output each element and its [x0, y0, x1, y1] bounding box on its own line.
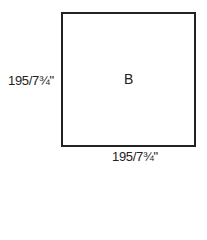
shape-label: B [124, 71, 133, 87]
height-dimension-label: 195/7¾" [8, 73, 54, 88]
width-dimension-label: 195/7¾" [112, 149, 158, 164]
